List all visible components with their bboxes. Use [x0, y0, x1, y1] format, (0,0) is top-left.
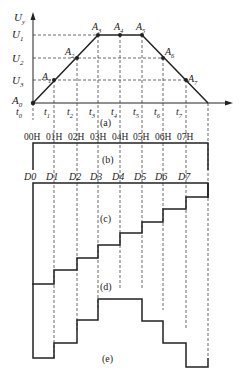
address-06h: 06H [155, 132, 172, 142]
time-label-t6: t6 [154, 106, 161, 119]
address-02h: 02H [68, 132, 85, 142]
panel-e-staircase-trapezoid: (e) [33, 285, 208, 367]
address-00h: 00H [24, 132, 41, 142]
panel-a-trapezoid-waveform: Uy U1 U2 U3 A0 A1 A2 A3 A4 A5 A6 A7 t0 t… [11, 11, 233, 358]
level-label-u3: U3 [12, 74, 24, 89]
data-label-d0: D0 [23, 171, 36, 182]
sample-points [31, 33, 188, 105]
point-label-a4: A4 [113, 21, 124, 34]
panel-label-d: (d) [100, 281, 112, 293]
time-label-t7: t7 [176, 106, 183, 119]
address-07h: 07H [177, 132, 194, 142]
data-label-d4: D4 [111, 171, 124, 182]
y-axis-arrow-icon [31, 12, 36, 20]
x-axis-arrow-icon [225, 101, 233, 106]
point-label-a1: A1 [41, 71, 51, 84]
point-label-a3: A3 [91, 21, 102, 34]
panel-label-b: (b) [102, 154, 114, 166]
y-axis-label: Uy [14, 11, 26, 26]
level-label-u1: U1 [12, 28, 23, 43]
panel-b-address-waveform: 00H 01H 02H 03H 04H 05H 06H 07H (b) [24, 132, 208, 170]
waveform-diagram: Uy U1 U2 U3 A0 A1 A2 A3 A4 A5 A6 A7 t0 t… [0, 0, 239, 381]
address-05h: 05H [133, 132, 150, 142]
panel-label-e: (e) [102, 353, 113, 365]
address-03h: 03H [90, 132, 107, 142]
point-label-a5: A5 [135, 21, 146, 34]
time-label-t2: t2 [67, 106, 74, 119]
data-label-d5: D5 [133, 171, 146, 182]
trapezoid-staircase [33, 285, 208, 367]
rising-staircase [33, 183, 208, 285]
time-label-t1: t1 [44, 106, 50, 119]
axes [31, 12, 234, 106]
data-label-d1: D1 [45, 171, 58, 182]
panel-label-a: (a) [100, 117, 111, 129]
trapezoid-curve [33, 35, 208, 103]
data-label-d2: D2 [68, 171, 81, 182]
panel-c-data-waveform: D0 D1 D2 D3 D4 D5 D6 D7 (c) [23, 171, 208, 285]
point-label-a7: A7 [187, 73, 198, 86]
time-gridlines [33, 35, 208, 358]
address-01h: 01H [46, 132, 63, 142]
time-label-t4: t4 [111, 106, 118, 119]
data-label-d6: D6 [154, 171, 167, 182]
level-label-u2: U2 [12, 52, 24, 67]
address-pulse [33, 143, 208, 170]
data-label-d7: D7 [177, 171, 191, 182]
data-label-d3: D3 [89, 171, 102, 182]
address-04h: 04H [112, 132, 129, 142]
point-label-a6: A6 [164, 46, 175, 59]
panel-d-staircase-rising: (d) [33, 183, 208, 293]
time-label-t3: t3 [89, 106, 96, 119]
time-label-t5: t5 [133, 106, 140, 119]
panel-label-c: (c) [100, 213, 111, 225]
point-label-a2: A2 [64, 46, 75, 59]
